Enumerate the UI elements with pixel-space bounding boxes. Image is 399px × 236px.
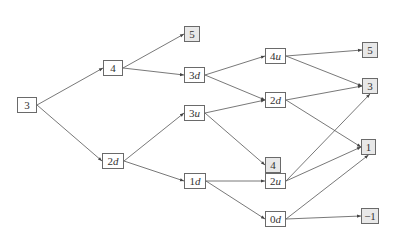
edge-arrow xyxy=(286,155,369,219)
node-label: 4u xyxy=(270,51,281,62)
tree-node: 0d xyxy=(265,211,286,227)
edge-arrow xyxy=(123,34,184,68)
edge-arrow xyxy=(286,86,362,100)
node-label: 4 xyxy=(110,63,116,74)
tree-node: 3 xyxy=(362,78,378,94)
tree-node: 3u xyxy=(184,105,205,121)
tree-node: 3 xyxy=(17,97,37,113)
edge-arrow xyxy=(37,68,103,105)
node-label: 3u xyxy=(189,108,200,119)
edge-arrow xyxy=(205,56,265,75)
edge-group xyxy=(37,34,370,219)
node-label: 2d xyxy=(108,156,119,167)
tree-node: 2d xyxy=(102,153,124,169)
node-label: 1 xyxy=(366,142,372,153)
tree-node: 5 xyxy=(362,42,378,58)
tree-node: 1d xyxy=(184,173,206,189)
node-label: 0d xyxy=(270,214,281,225)
edge-arrow xyxy=(37,105,102,161)
edge-arrow xyxy=(123,68,184,75)
tree-node: 2d xyxy=(265,92,286,108)
node-label: 5 xyxy=(367,45,373,56)
node-label: 2d xyxy=(270,95,281,106)
edge-arrow xyxy=(124,113,184,161)
tree-node: 5 xyxy=(184,26,200,42)
node-label: 2u xyxy=(270,176,281,187)
tree-node: 4u xyxy=(265,48,286,64)
tree-node: 3d xyxy=(184,67,205,83)
node-label: 4 xyxy=(270,160,276,171)
edge-arrow xyxy=(286,56,362,86)
edge-arrow xyxy=(205,100,265,113)
edge-arrow xyxy=(206,181,265,219)
tree-node: −1 xyxy=(361,208,379,224)
edge-arrow xyxy=(286,94,370,181)
node-label: 3d xyxy=(189,70,200,81)
edge-arrow xyxy=(286,50,362,56)
edge-arrow xyxy=(286,100,361,147)
edge-arrow xyxy=(286,216,361,219)
node-label: 3 xyxy=(367,81,373,92)
edge-arrow xyxy=(286,147,361,181)
tree-node: 4 xyxy=(103,60,123,76)
edge-arrow xyxy=(205,75,265,100)
node-label: 1d xyxy=(190,176,201,187)
tree-node: 1 xyxy=(361,139,376,155)
node-label: 5 xyxy=(189,29,195,40)
node-label: −1 xyxy=(364,211,376,222)
tree-node: 4 xyxy=(265,157,281,173)
node-label: 3 xyxy=(24,100,30,111)
tree-node: 2u xyxy=(265,173,286,189)
edge-arrow xyxy=(124,161,184,181)
edge-arrow xyxy=(205,113,265,165)
